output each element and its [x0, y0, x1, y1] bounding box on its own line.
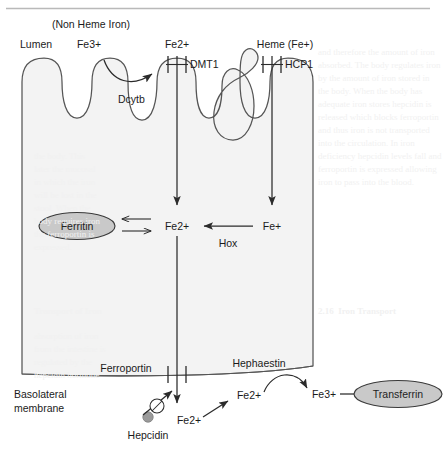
label-dmt1: DMT1 [190, 58, 219, 70]
label-fe2-apical: Fe2+ [165, 38, 189, 50]
label-basolateral-line2: membrane [14, 402, 64, 414]
enterocyte-cell-body [22, 49, 313, 376]
label-fe2-basal: Fe2+ [237, 389, 261, 401]
diagram-canvas: (Non Heme Iron) Lumen Fe3+ Fe2+ Heme (Fe… [0, 0, 445, 462]
label-fe3-basal: Fe3+ [312, 388, 336, 400]
label-dcytb: Dcytb [118, 93, 145, 105]
label-basolateral-line1: Basolateral [14, 388, 67, 400]
label-ferritin: Ferritin [61, 220, 94, 232]
hephaestin-oxidation-arrow [264, 375, 307, 392]
label-fe2-cytosol: Fe2+ [165, 220, 189, 232]
inhibition-circle-slash-icon [150, 399, 164, 413]
label-fe2-exported: Fe2+ [177, 414, 201, 426]
iron-transport-figure: and therefore the amount of iron absorbe… [0, 0, 445, 462]
label-hephaestin: Hephaestin [232, 357, 285, 369]
label-transferrin: Transferrin [373, 388, 424, 400]
label-lumen: Lumen [20, 38, 52, 50]
label-hcp1: HCP1 [285, 58, 313, 70]
label-fe-plus-cytosol: Fe+ [263, 220, 281, 232]
label-hox: Hox [219, 237, 238, 249]
label-hepcidin: Hepcidin [128, 429, 169, 441]
label-ferroportin: Ferroportin [100, 362, 152, 374]
label-fe3-apical: Fe3+ [77, 38, 101, 50]
label-heme: Heme (Fe+) [257, 38, 313, 50]
fe2-diffusion-arrow [203, 401, 228, 417]
label-non-heme-iron: (Non Heme Iron) [52, 18, 130, 30]
